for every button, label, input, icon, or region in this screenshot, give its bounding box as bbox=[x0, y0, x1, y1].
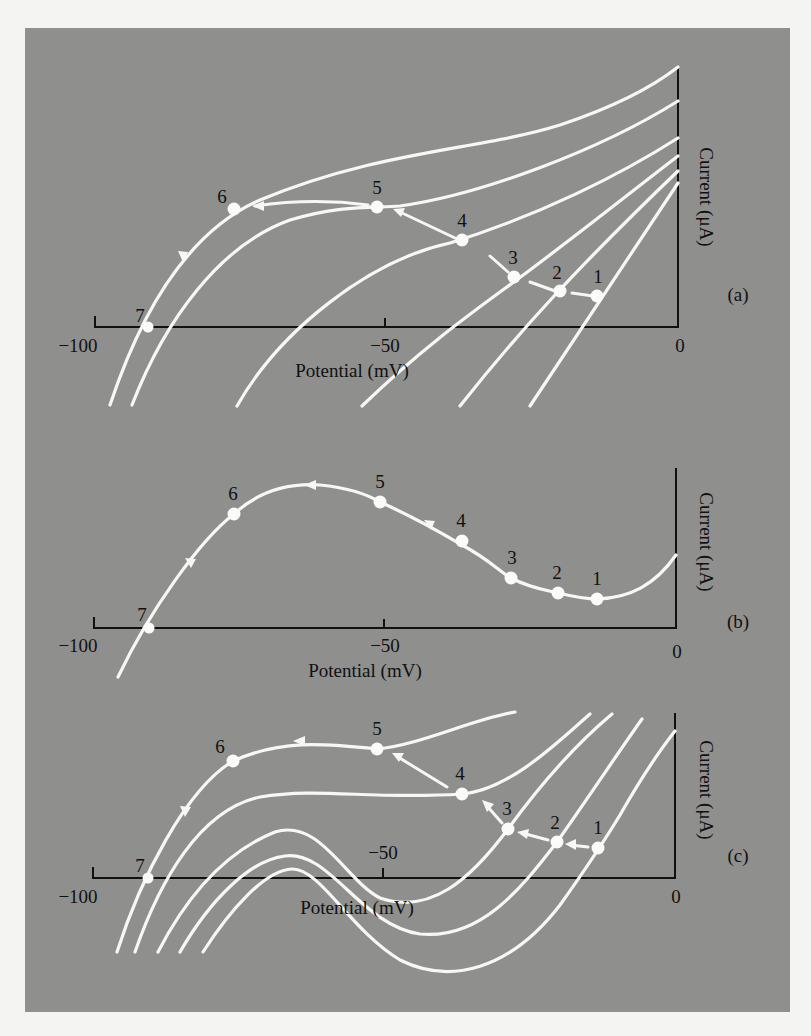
panel-c-tick-label-0: 0 bbox=[671, 886, 681, 907]
panel-b-axes bbox=[94, 468, 676, 628]
panel-a-curve-5 bbox=[460, 171, 678, 406]
panel-b-point-label-6: 6 bbox=[228, 483, 238, 504]
panel-c-ylabel: Current (μA) bbox=[695, 740, 717, 839]
panel-a: 1 2 3 4 5 6 7 −100 −50 0 Potential (mV) … bbox=[58, 67, 748, 406]
panel-c-point-3 bbox=[502, 823, 515, 836]
panel-b-point-1 bbox=[591, 593, 604, 606]
panel-b-point-label-4: 4 bbox=[456, 510, 466, 531]
panel-b-point-label-7: 7 bbox=[137, 604, 147, 625]
panel-a-point-label-6: 6 bbox=[217, 186, 227, 207]
panel-c-point-6 bbox=[227, 755, 240, 768]
panel-b-point-2 bbox=[552, 587, 565, 600]
panel-c-point-label-6: 6 bbox=[215, 736, 225, 757]
panel-b-label: (b) bbox=[727, 611, 749, 633]
panel-a-ylabel: Current (μA) bbox=[695, 147, 717, 246]
panel-a-point-label-2: 2 bbox=[552, 262, 562, 283]
panel-a-point-6 bbox=[228, 203, 241, 216]
panel-c-arrowhead-2-3 bbox=[517, 829, 529, 839]
panel-a-point-label-1: 1 bbox=[593, 266, 603, 287]
panel-a-point-label-4: 4 bbox=[457, 210, 467, 231]
panel-b-point-4 bbox=[456, 535, 469, 548]
panel-a-axes bbox=[95, 67, 678, 327]
panel-b-arrowhead-peak bbox=[304, 480, 316, 490]
panel-b-point-label-5: 5 bbox=[375, 471, 385, 492]
panel-b: 1 2 3 4 5 6 7 −100 −50 0 Potential (mV) … bbox=[58, 468, 749, 682]
figure-panel: 1 2 3 4 5 6 7 −100 −50 0 Potential (mV) … bbox=[25, 28, 790, 1012]
panel-c: 1 2 3 4 5 6 7 −100 −50 0 Potential (mV) … bbox=[58, 712, 748, 971]
panel-b-point-label-2: 2 bbox=[552, 562, 562, 583]
panel-c-tick-label-m100: −100 bbox=[58, 886, 97, 907]
panel-a-point-2 bbox=[554, 285, 567, 298]
panel-c-trajectory bbox=[398, 757, 588, 847]
panel-b-xlabel: Potential (mV) bbox=[308, 660, 421, 682]
panel-b-tick-label-m100: −100 bbox=[58, 635, 97, 656]
panel-b-point-5 bbox=[374, 496, 387, 509]
panel-c-point-5 bbox=[371, 743, 384, 756]
panel-a-point-label-7: 7 bbox=[135, 305, 145, 326]
panel-b-point-6 bbox=[228, 508, 241, 521]
panel-b-point-label-3: 3 bbox=[507, 547, 517, 568]
panel-a-tick-label-m100: −100 bbox=[58, 335, 97, 356]
iv-curves-figure: 1 2 3 4 5 6 7 −100 −50 0 Potential (mV) … bbox=[25, 28, 790, 1012]
panel-c-point-1 bbox=[592, 842, 605, 855]
panel-a-curve-6 bbox=[530, 183, 678, 406]
panel-b-point-label-1: 1 bbox=[592, 568, 602, 589]
panel-c-point-4 bbox=[456, 788, 469, 801]
panel-c-tick-label-m50: −50 bbox=[368, 842, 398, 863]
panel-a-label: (a) bbox=[727, 284, 748, 306]
panel-a-tick-label-m50: −50 bbox=[370, 335, 400, 356]
panel-a-point-label-5: 5 bbox=[372, 177, 382, 198]
panel-b-point-3 bbox=[505, 572, 518, 585]
panel-b-tick-label-0: 0 bbox=[672, 641, 682, 662]
panel-c-point-label-3: 3 bbox=[502, 798, 512, 819]
panel-c-point-label-5: 5 bbox=[372, 718, 382, 739]
panel-c-point-label-1: 1 bbox=[593, 817, 603, 838]
panel-a-point-label-3: 3 bbox=[508, 247, 518, 268]
panel-b-tick-label-m50: −50 bbox=[370, 635, 400, 656]
panel-a-point-3 bbox=[508, 271, 521, 284]
panel-a-point-5 bbox=[371, 201, 384, 214]
panel-a-point-4 bbox=[456, 234, 469, 247]
panel-c-label: (c) bbox=[727, 845, 748, 867]
panel-c-xlabel: Potential (mV) bbox=[300, 897, 413, 919]
panel-a-curve-4 bbox=[362, 156, 678, 406]
panel-c-point-label-4: 4 bbox=[455, 763, 465, 784]
panel-a-point-1 bbox=[591, 290, 604, 303]
panel-c-point-label-2: 2 bbox=[550, 812, 560, 833]
panel-a-xlabel: Potential (mV) bbox=[295, 360, 408, 382]
panel-b-ylabel: Current (μA) bbox=[695, 492, 717, 591]
panel-c-point-2 bbox=[551, 836, 564, 849]
panel-c-arrowhead-1-2 bbox=[565, 839, 576, 850]
panel-c-point-label-7: 7 bbox=[135, 855, 145, 876]
panel-a-tick-label-0: 0 bbox=[675, 335, 685, 356]
